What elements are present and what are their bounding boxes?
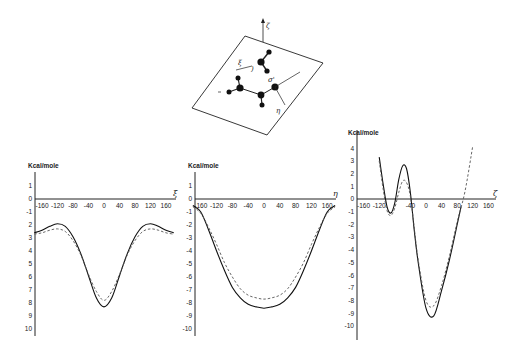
x-tick-label: 40 (438, 202, 446, 209)
y-tick-label: -5 (348, 259, 354, 266)
y-tick-label: -6 (348, 272, 354, 279)
y-tick-label: -9 (186, 312, 192, 319)
x-tick-label: -40 (243, 202, 253, 209)
y-tick-label: 0 (350, 195, 354, 202)
x-tick-label: -40 (84, 202, 94, 209)
x-tick-label: 80 (131, 202, 139, 209)
x-axis-label: ζ (493, 189, 498, 198)
xi-label: ξ (238, 59, 243, 67)
y-axis-label: Kcal/mole (348, 129, 379, 136)
zeta-arrowhead-icon (261, 18, 265, 23)
y-tick-label: -1 (186, 208, 192, 215)
y-tick-label: -3 (348, 233, 354, 240)
x-tick-label: 160 (483, 202, 494, 209)
y-tick-label: -2 (348, 221, 354, 228)
y-tick-label: 8 (28, 299, 32, 306)
sigma-label: σ' (268, 76, 275, 84)
x-tick-label: -40 (406, 202, 416, 209)
y-tick-label: -3 (186, 234, 192, 241)
x-tick-label: -120 (51, 202, 64, 209)
chart-xi-rotation: Kcal/moleξ10-12345678910-160-120-80-4004… (25, 162, 178, 336)
x-tick-label: 120 (306, 202, 317, 209)
y-tick-label: -7 (348, 284, 354, 291)
y-tick-label: -1 (348, 208, 354, 215)
x-tick-label: 160 (161, 202, 172, 209)
series-solid-line (379, 157, 461, 317)
chart-zeta-rotation: Kcal/moleζ43210-1-2-3-4-5-6-7-8-9-10-160… (345, 129, 498, 340)
y-tick-label: 2 (350, 170, 354, 177)
x-tick-label: 80 (454, 202, 462, 209)
x-tick-label: 0 (102, 202, 106, 209)
series-dashed-line (379, 146, 473, 307)
y-tick-label: 0 (28, 195, 32, 202)
y-tick-label: 3 (350, 157, 354, 164)
eta-label: η (276, 107, 281, 115)
atom (266, 49, 271, 54)
y-tick-label: -8 (348, 297, 354, 304)
figure-canvas: ζ ξ ) σ' η Kcal/moleξ10-12345678910-160-… (0, 0, 521, 353)
y-axis-label: Kcal/mole (28, 162, 59, 169)
y-tick-label: -5 (186, 260, 192, 267)
sigma-axis-arrow (275, 72, 300, 87)
x-tick-label: 40 (116, 202, 124, 209)
y-tick-label: 1 (350, 183, 354, 190)
y-tick-label: -2 (186, 221, 192, 228)
y-tick-label: -9 (348, 310, 354, 317)
y-tick-label: 10 (25, 325, 33, 332)
atom (260, 103, 265, 108)
y-tick-label: 0 (188, 195, 192, 202)
y-tick-label: 1 (188, 182, 192, 189)
plane-parallelogram (192, 36, 323, 135)
series-solid-line (193, 206, 335, 309)
x-tick-label: -80 (228, 202, 238, 209)
y-tick-label: -4 (348, 246, 354, 253)
molecule-diagram: ζ ξ ) σ' η (192, 18, 323, 135)
atom (264, 68, 269, 73)
y-tick-label: -4 (186, 247, 192, 254)
x-tick-label: -120 (373, 202, 386, 209)
x-tick-label: 0 (262, 202, 266, 209)
series-dashed-line (193, 207, 335, 299)
y-tick-label: -7 (186, 286, 192, 293)
y-tick-label: 6 (28, 273, 32, 280)
x-tick-label: 0 (424, 202, 428, 209)
y-tick-label: -10 (183, 325, 193, 332)
y-axis-label: Kcal/mole (188, 162, 219, 169)
y-tick-label: -6 (186, 273, 192, 280)
y-tick-label: -8 (186, 299, 192, 306)
atom (236, 76, 241, 81)
x-axis-label: η (333, 189, 338, 198)
series-solid-line (34, 224, 174, 307)
x-tick-label: 40 (276, 202, 284, 209)
atom (236, 84, 243, 91)
x-tick-label: 120 (467, 202, 478, 209)
series-dashed-line (34, 229, 174, 301)
x-tick-label: 80 (292, 202, 300, 209)
xi-rotation-mark: ) (250, 65, 254, 73)
x-tick-label: -80 (68, 202, 78, 209)
x-tick-label: 120 (145, 202, 156, 209)
atom (227, 90, 232, 95)
y-tick-label: -1 (26, 208, 32, 215)
y-tick-label: 3 (28, 234, 32, 241)
y-tick-label: 2 (28, 221, 32, 228)
y-tick-label: -10 (345, 322, 355, 329)
y-tick-label: 7 (28, 286, 32, 293)
atom (257, 58, 264, 65)
y-tick-label: 5 (28, 260, 32, 267)
y-tick-label: 9 (28, 312, 32, 319)
y-tick-label: 4 (28, 247, 32, 254)
x-axis-label: ξ (173, 189, 178, 198)
x-tick-label: -160 (35, 202, 48, 209)
y-tick-label: 4 (350, 145, 354, 152)
x-tick-label: -160 (357, 202, 370, 209)
atom (258, 92, 265, 99)
eta-axis-arrow (275, 87, 285, 105)
chart-eta-rotation: Kcal/moleη10-1-2-3-4-5-6-7-8-9-10-160-12… (183, 162, 338, 336)
x-tick-label: -120 (210, 202, 223, 209)
y-tick-label: 1 (28, 182, 32, 189)
zeta-label: ζ (266, 22, 271, 30)
